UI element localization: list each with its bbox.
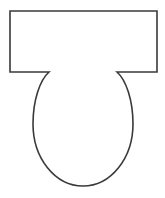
composite-shape-outline — [10, 11, 157, 186]
figure-canvas: Geometric line figure Outline drawing of… — [0, 0, 165, 198]
line-figure-svg: Geometric line figure Outline drawing of… — [0, 0, 165, 198]
